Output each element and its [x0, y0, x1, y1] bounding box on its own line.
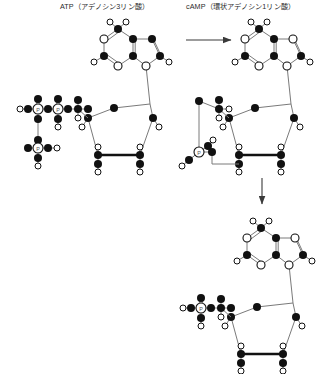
phosphorus-label: P	[197, 150, 201, 156]
camp-adenine-bonds	[235, 22, 310, 104]
atp-adenine-atoms	[91, 19, 172, 70]
amp-phosphate-bonds	[183, 298, 231, 326]
amp-adenine-bonds	[237, 221, 312, 303]
atp-adenine-bonds	[94, 22, 169, 104]
atp-ribose-bonds	[82, 104, 159, 172]
chemical-diagram-canvas: ATP（アデノシン3リン酸） cAMP（環状アデノシン1リン酸）	[0, 0, 331, 374]
structure-amp: P	[180, 218, 315, 374]
phosphorus-label: P	[56, 107, 60, 113]
phosphorus-label: P	[36, 107, 40, 113]
amp-ribose-bonds	[225, 303, 302, 371]
atp-phosphate-atoms: P P P	[17, 95, 92, 169]
structures-svg: P P P	[0, 0, 331, 374]
camp-ribose-bonds	[223, 104, 300, 172]
atp-ribose-atoms	[79, 104, 162, 175]
phosphorus-label: P	[36, 146, 40, 152]
amp-ribose-atoms	[222, 303, 305, 374]
structure-camp: P	[179, 19, 313, 175]
amp-adenine-atoms	[234, 218, 315, 269]
camp-cyclic-phosphate-atoms: P	[179, 96, 232, 169]
camp-adenine-atoms	[232, 19, 313, 70]
structure-atp: P P P	[17, 19, 172, 175]
phosphorus-label: P	[199, 306, 203, 312]
